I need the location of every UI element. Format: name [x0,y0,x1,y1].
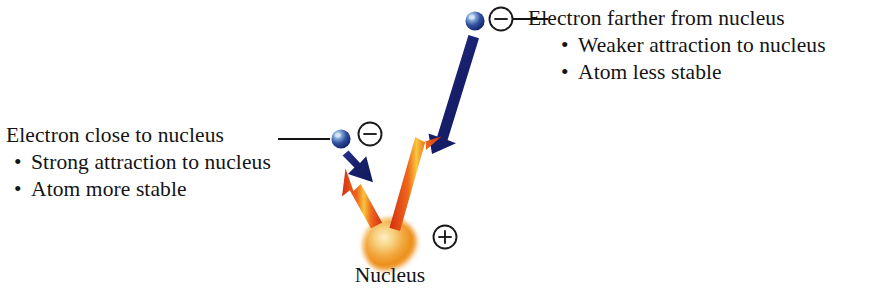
label-right-bullet-1: •Weaker attraction to nucleus [528,32,826,59]
nucleus-charge-symbol [434,226,457,249]
electron-far-sphere [465,11,484,30]
nucleus-caption: Nucleus [330,262,450,288]
electron-near-sphere [331,129,350,148]
label-left-bullet-1: •Strong attraction to nucleus [6,149,271,176]
bullet-icon: • [14,149,31,176]
bullet-icon: • [14,176,31,203]
bullet-icon: • [561,32,578,59]
label-block-left: Electron close to nucleus •Strong attrac… [6,122,271,203]
label-left-bullet-1-text: Strong attraction to nucleus [31,150,271,174]
electron-near-charge-symbol [359,123,382,146]
label-right-bullet-2: •Atom less stable [528,59,826,86]
bullet-icon: • [561,59,578,86]
diagram-canvas: Electron close to nucleus •Strong attrac… [0,0,893,292]
label-left-title: Electron close to nucleus [6,122,271,149]
electron-far-charge-symbol [490,8,513,31]
label-right-title: Electron farther from nucleus [528,5,826,32]
arrow-blue-long [429,35,480,154]
label-block-right: Electron farther from nucleus •Weaker at… [528,5,826,86]
label-left-bullet-2-text: Atom more stable [31,177,187,201]
label-left-bullet-2: •Atom more stable [6,176,271,203]
label-right-bullet-1-text: Weaker attraction to nucleus [578,33,826,57]
label-right-bullet-2-text: Atom less stable [578,60,722,84]
